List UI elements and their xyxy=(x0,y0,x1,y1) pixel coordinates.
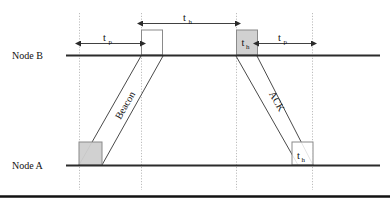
node-b-th-label: t xyxy=(242,37,245,48)
tp-right-sublabel: p xyxy=(284,38,288,46)
node-a-th-label: t xyxy=(297,150,300,161)
node-a-tx-box xyxy=(79,142,102,165)
node-b-rx-box xyxy=(142,30,163,55)
node-b-th-sublabel: h xyxy=(246,43,250,51)
timing-diagram-canvas: Node B Node A t p t h t p t h t h xyxy=(0,0,390,208)
node-a-label: Node A xyxy=(12,160,44,171)
node-a-th-sublabel: h xyxy=(302,156,306,164)
tp-right-label: t xyxy=(278,32,281,43)
timing-diagram: Node B Node A t p t h t p t h t h xyxy=(0,0,390,208)
tp-left-sublabel: p xyxy=(109,38,113,46)
th-top-label: t xyxy=(183,12,186,23)
tp-left-label: t xyxy=(103,32,106,43)
node-b-label: Node B xyxy=(12,50,43,61)
page-background xyxy=(0,0,390,208)
th-top-sublabel: h xyxy=(189,18,193,26)
